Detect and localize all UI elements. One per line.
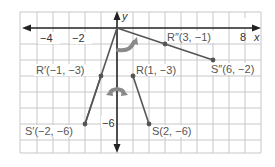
x-axis-label: x <box>253 31 260 43</box>
y-axis-down-arrow-icon <box>114 144 121 153</box>
coordinate-plane: y x −4 −2 8 −6 R′(−1, −3) R(1, −3) R″(3,… <box>0 0 275 167</box>
point-S-double-prime <box>211 58 216 63</box>
x-tick-neg4: −4 <box>40 32 53 44</box>
label-R: R(1, −3) <box>136 64 176 76</box>
segment-RS <box>133 76 149 124</box>
point-S <box>147 122 152 127</box>
label-S-double-prime: S″(6, −2) <box>211 63 254 75</box>
y-tick-neg6: −6 <box>102 117 115 129</box>
x-axis-left-arrow-icon <box>22 25 31 32</box>
label-R-prime: R′(−1, −3) <box>36 64 85 76</box>
label-R-double-prime: R″(3, −1) <box>167 31 211 43</box>
x-tick-8: 8 <box>240 31 246 43</box>
x-tick-neg2: −2 <box>72 32 85 44</box>
x-axis <box>22 25 261 32</box>
point-R <box>131 74 136 79</box>
point-R-prime <box>99 74 104 79</box>
label-S: S(2, −6) <box>152 125 191 137</box>
y-axis <box>114 11 121 153</box>
point-S-prime <box>83 122 88 127</box>
label-S-prime: S′(−2, −6) <box>25 125 73 137</box>
